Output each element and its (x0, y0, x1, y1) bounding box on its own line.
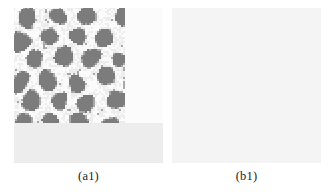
pattern-image-b1 (172, 8, 321, 163)
panel-caption-b1: (b1) (172, 168, 321, 184)
pattern-image-a1 (14, 8, 163, 163)
panel-b1 (172, 8, 321, 163)
panel-a1 (14, 8, 163, 163)
panel-caption-a1: (a1) (14, 168, 163, 184)
figure-root: (a1) (b1) (0, 0, 334, 194)
